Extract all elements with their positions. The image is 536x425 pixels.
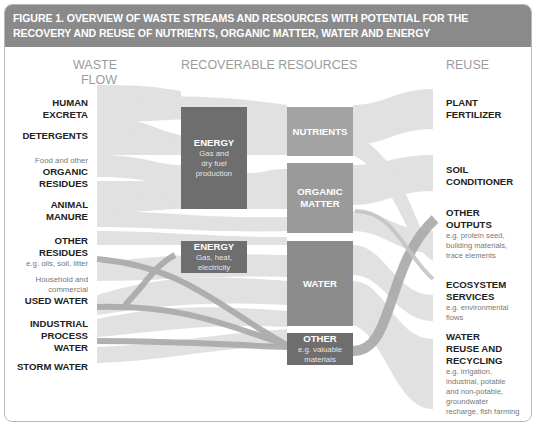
reuse-heading: REUSE (446, 58, 489, 73)
waste-flow-heading: WASTE FLOW (61, 58, 117, 88)
node-organic-matter: ORGANIC MATTER (287, 163, 353, 233)
reuse-soil-conditioner: SOIL CONDITIONER (446, 164, 532, 188)
waste-human-excreta: HUMAN EXCRETA (43, 97, 88, 121)
node-energy-electricity: ENERGY Gas, heat, electricity (181, 241, 247, 273)
waste-other-residues: OTHER RESIDUES e.g. oils, soil, litter (26, 235, 88, 269)
flow-band (97, 155, 181, 185)
figure-frame: FIGURE 1. OVERVIEW OF WASTE STREAMS AND … (4, 4, 532, 422)
waste-industrial-process-water: INDUSTRIAL PROCESS WATER (30, 318, 88, 354)
waste-detergents: DETERGENTS (22, 130, 88, 142)
recoverable-resources-heading: RECOVERABLE RESOURCES (181, 58, 357, 73)
waste-organic-residues: Food and other ORGANIC RESIDUES (35, 156, 88, 190)
waste-storm-water: STORM WATER (17, 361, 88, 373)
waste-used-water: Household and commercial USED WATER (25, 275, 88, 307)
reuse-plant-fertilizer: PLANT FERTILIZER (446, 97, 532, 121)
flow-band (247, 169, 287, 209)
node-nutrients: NUTRIENTS (287, 107, 353, 156)
reuse-ecosystem-services: ECOSYSTEM SERVICES e.g. environmental fl… (446, 279, 532, 323)
flow-band (97, 211, 287, 231)
flow-band (247, 109, 287, 155)
node-energy-fuel: ENERGY Gas and dry fuel production (181, 107, 247, 209)
node-water: WATER (287, 241, 353, 326)
flow-band (353, 89, 433, 145)
node-other: OTHER e.g. valuable materials (287, 333, 353, 365)
waste-animal-manure: ANIMAL MANURE (46, 199, 88, 223)
reuse-other-outputs: OTHER OUTPUTS e.g. protein seed, buildin… (446, 207, 532, 261)
reuse-water-recycling: WATER REUSE AND RECYCLING e.g. irrigatio… (446, 331, 532, 417)
